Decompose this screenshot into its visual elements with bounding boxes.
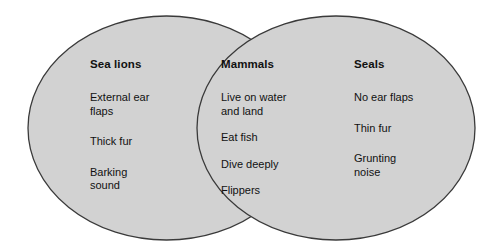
- spacer: [354, 135, 454, 152]
- region-label-sea-lions: Sea lions External ear flaps Thick fur B…: [90, 58, 190, 193]
- region-item-sea-lions-1: Thick fur: [90, 135, 190, 149]
- region-item-mammals-3: Flippers: [221, 184, 307, 198]
- region-heading-sea-lions: Sea lions: [90, 58, 190, 71]
- region-item-seals-1: Thin fur: [354, 122, 454, 136]
- spacer: [354, 71, 454, 91]
- spacer: [90, 118, 190, 135]
- spacer: [221, 145, 307, 158]
- spacer: [90, 71, 190, 91]
- spacer: [354, 105, 454, 122]
- region-item-sea-lions-2: Barking sound: [90, 166, 190, 193]
- region-label-mammals: Mammals Live on water and land Eat fish …: [221, 58, 307, 198]
- region-item-mammals-2: Dive deeply: [221, 158, 307, 172]
- spacer: [221, 118, 307, 131]
- venn-diagram: Sea lions External ear flaps Thick fur B…: [0, 0, 500, 250]
- region-item-seals-2: Grunting noise: [354, 152, 454, 179]
- spacer: [221, 171, 307, 184]
- region-heading-mammals: Mammals: [221, 58, 307, 71]
- region-heading-seals: Seals: [354, 58, 454, 71]
- spacer: [221, 71, 307, 91]
- region-item-seals-0: No ear flaps: [354, 91, 454, 105]
- region-label-seals: Seals No ear flaps Thin fur Grunting noi…: [354, 58, 454, 179]
- region-item-mammals-0: Live on water and land: [221, 91, 307, 118]
- spacer: [90, 149, 190, 166]
- region-item-sea-lions-0: External ear flaps: [90, 91, 190, 118]
- region-item-mammals-1: Eat fish: [221, 131, 307, 145]
